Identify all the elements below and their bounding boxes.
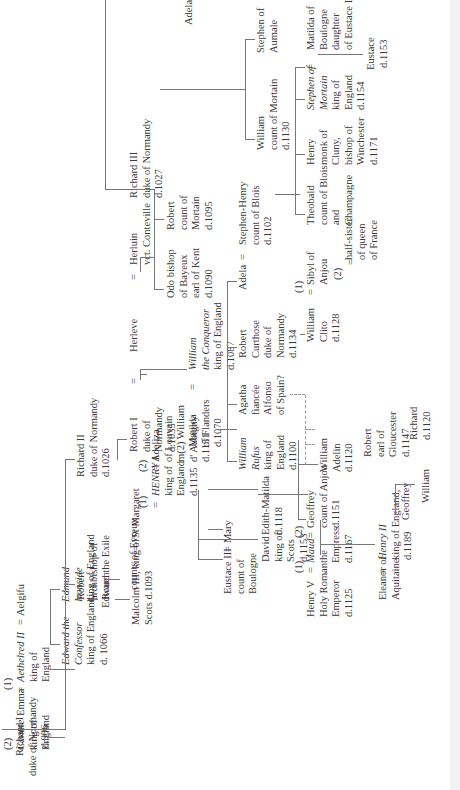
person-henry-winchester: Henrymonk ofCluny,bishop ofWinchesterd.1… — [305, 118, 380, 165]
connector-horizontal — [245, 40, 246, 140]
person-edward-exile: Edward the Exile — [100, 535, 113, 608]
person-text-line: Stephen of — [305, 66, 318, 110]
person-text-line: d.1153 — [378, 37, 391, 70]
person-text-line: Mortain — [318, 66, 331, 110]
connector-horizontal — [154, 190, 155, 290]
connector-vertical — [115, 599, 130, 600]
person-malcolm: Malcolm III, king ofScots d.1093 — [130, 539, 155, 625]
person-text-line: Champagne — [343, 166, 356, 226]
person-text-line: William — [420, 469, 433, 503]
person-text-line: d.1134 — [287, 313, 300, 358]
connector-vertical — [198, 539, 258, 540]
connector-vertical — [258, 494, 308, 495]
connector-vertical — [50, 589, 60, 590]
person-text-line: and — [330, 166, 343, 226]
person-text-line: Eustace — [365, 37, 378, 70]
connector-horizontal — [198, 490, 199, 560]
connector-vertical — [295, 214, 305, 215]
person-text-line: half-sister — [343, 218, 356, 260]
marriage-sign: = — [237, 254, 249, 260]
person-text-line: Holy Roman — [318, 563, 331, 617]
connector-vertical — [245, 39, 255, 40]
person-text-line: HENRY I — [150, 457, 163, 496]
person-sibyl: Sibyl ofAnjou — [305, 251, 330, 285]
person-text-line: Normandy — [275, 313, 288, 358]
marriage-sign: = — [305, 64, 317, 70]
person-geoffrey-anjou: Geoffreycount of Anjoud.1151 — [305, 465, 343, 528]
person-text-line: Sibyl of — [305, 251, 318, 285]
marriage-order-mark: (1) — [293, 281, 305, 293]
person-text-line: Boulogne — [318, 0, 331, 50]
connector-horizontal — [227, 282, 228, 462]
connector-vertical — [65, 459, 75, 460]
connector-vertical — [395, 514, 400, 515]
connector-horizontal — [395, 485, 396, 515]
connector-vertical — [65, 584, 75, 585]
person-stephen-king: Stephen ofMortainking ofEnglandd.1154 — [305, 66, 368, 110]
person-geoffrey: Geoffrey — [400, 482, 413, 520]
person-text-line: William — [305, 308, 318, 342]
person-text-line: Odo bishop — [165, 248, 178, 298]
person-text-line: d.1120 — [421, 407, 434, 440]
person-text-line: Robert I — [128, 407, 141, 452]
person-text-line: Winchester — [355, 118, 368, 165]
person-stephen-aumale: Stephen ofAumale — [255, 8, 280, 53]
person-text-line: monk of — [318, 118, 331, 165]
marriage-sign: = — [128, 274, 140, 280]
marriage-sign: = — [377, 569, 389, 575]
person-text-line: Aquitaine — [390, 556, 403, 600]
person-text-line: fiancée — [250, 375, 263, 415]
person-text-line: Cluny, — [330, 118, 343, 165]
person-text-line: Henry — [305, 118, 318, 165]
connector-vertical — [106, 579, 120, 580]
person-text-line: d.1026 — [100, 398, 113, 477]
marriage-sign: = — [305, 567, 317, 573]
connector-horizontal — [295, 67, 296, 215]
connector-vertical — [318, 54, 363, 55]
connector-vertical — [198, 559, 223, 560]
person-text-line: of Eustace III — [343, 0, 356, 50]
person-text-line: Eustace III — [222, 548, 235, 594]
connector-vertical — [208, 529, 223, 530]
person-text-line: king of — [163, 457, 176, 496]
marriage-order-mark: (2) — [332, 268, 344, 280]
person-text-line: England — [40, 715, 53, 750]
person-text-line: Scots d.1093 — [143, 539, 156, 625]
connector-dashed — [305, 429, 315, 430]
connector-vertical — [140, 374, 147, 375]
person-robert-glouc: Robertearl ofGloucesterd.1147 — [362, 412, 412, 457]
connector-horizontal — [320, 520, 321, 555]
person-text-line: bishop of — [343, 118, 356, 165]
person-text-line: Malcolm III, king of — [130, 539, 143, 625]
connector-vertical — [154, 219, 164, 220]
connector-horizontal — [140, 370, 141, 380]
connector-vertical — [105, 189, 155, 190]
person-text-line: d.1090 — [203, 248, 216, 298]
person-text-line: William — [237, 435, 250, 470]
person-text-line: Anjou — [318, 251, 331, 285]
connector-horizontal — [105, 0, 106, 190]
connector-dashed — [290, 394, 305, 395]
connector-vertical — [395, 484, 415, 485]
person-text-line: Robert — [165, 195, 178, 230]
person-text-line: king of — [330, 66, 343, 110]
connector-vertical — [298, 519, 306, 520]
person-text-line: Edward the Exile — [100, 535, 113, 608]
person-text-line: d.1070 — [212, 399, 225, 447]
person-text-line: vct. Conteville — [141, 203, 154, 265]
person-text-line: Matilda of — [305, 0, 318, 50]
marriage-order-mark: (1) — [2, 678, 14, 690]
person-richard2: Richard IIduke of Normandyd.1026 — [75, 398, 113, 477]
person-text-line: Aethelred II — [15, 632, 28, 682]
person-eustace: Eustaced.1153 — [365, 37, 390, 70]
person-text-line: Robert — [362, 412, 375, 457]
person-text-line: Adela — [237, 265, 250, 290]
person-text-line: England — [275, 435, 288, 470]
person-text-line: Canute — [15, 715, 28, 750]
person-adela: Adela — [237, 265, 250, 290]
person-text-line: count of Mortain — [268, 79, 281, 150]
connector-vertical — [300, 334, 305, 335]
person-text-line: Herleve — [128, 319, 141, 352]
marriage-sign: = — [150, 502, 162, 508]
person-text-line: William — [187, 302, 200, 370]
